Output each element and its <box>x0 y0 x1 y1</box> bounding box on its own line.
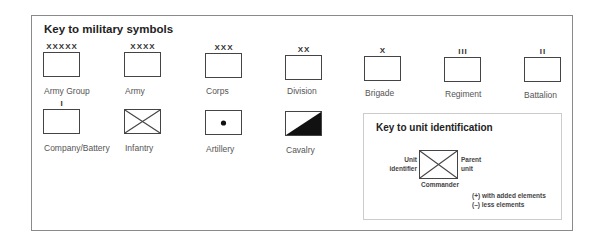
symbol-army: XXXX <box>124 42 162 77</box>
unit-box-icon <box>285 55 322 80</box>
unit-box-icon <box>205 53 242 78</box>
echelon-mark: XXXXX <box>43 42 81 52</box>
unit-id-diagram-icon <box>419 150 458 179</box>
commander-label: Commander <box>421 181 459 188</box>
symbol-label: Battalion <box>524 90 557 100</box>
note-added-elements: (+) with added elements <box>472 192 546 199</box>
unit-box-icon <box>444 57 481 82</box>
echelon-mark: I <box>43 99 81 109</box>
symbol-army-group: XXXXX <box>43 42 81 77</box>
symbol-battalion: II <box>524 47 562 82</box>
symbol-label: Cavalry <box>286 145 315 155</box>
legend-title: Key to military symbols <box>44 23 173 35</box>
symbol-label: Army <box>125 86 145 96</box>
echelon-mark: II <box>524 47 562 57</box>
artillery-icon <box>205 110 242 135</box>
symbol-infantry <box>124 109 162 134</box>
symbol-label: Army Group <box>44 86 90 96</box>
symbol-division: XX <box>285 45 323 80</box>
echelon-mark: XX <box>285 45 323 55</box>
symbol-label: Regiment <box>445 89 481 99</box>
unit-identifier-label-1: Unit <box>399 156 417 163</box>
symbol-artillery <box>205 110 243 135</box>
unit-box-icon <box>524 57 561 82</box>
symbol-company-battery: I <box>43 99 81 134</box>
infantry-icon <box>124 109 161 134</box>
symbol-label: Brigade <box>365 88 394 98</box>
echelon-mark: III <box>444 47 482 57</box>
unit-identifier-label-2: identifier <box>387 165 417 172</box>
note-less-elements: (–) less elements <box>472 201 524 208</box>
parent-unit-label-1: Parent <box>461 156 481 163</box>
symbol-corps: XXX <box>205 43 243 78</box>
echelon-mark: XXX <box>205 43 243 53</box>
unit-box-icon <box>124 52 161 77</box>
symbol-label: Division <box>287 86 317 96</box>
symbol-label: Infantry <box>125 143 153 153</box>
unit-box-icon <box>43 109 80 134</box>
symbol-label: Corps <box>206 86 229 96</box>
symbol-label: Artillery <box>206 144 234 154</box>
unit-key-title: Key to unit identification <box>376 122 493 133</box>
symbol-brigade: X <box>364 46 402 81</box>
echelon-mark: X <box>364 46 402 56</box>
unit-box-icon <box>43 52 80 77</box>
unit-box-icon <box>364 56 401 81</box>
symbol-regiment: III <box>444 47 482 82</box>
symbol-cavalry <box>285 111 323 136</box>
echelon-mark: XXXX <box>124 42 162 52</box>
cavalry-icon <box>285 111 322 136</box>
symbol-label: Company/Battery <box>44 143 110 153</box>
parent-unit-label-2: unit <box>461 165 473 172</box>
